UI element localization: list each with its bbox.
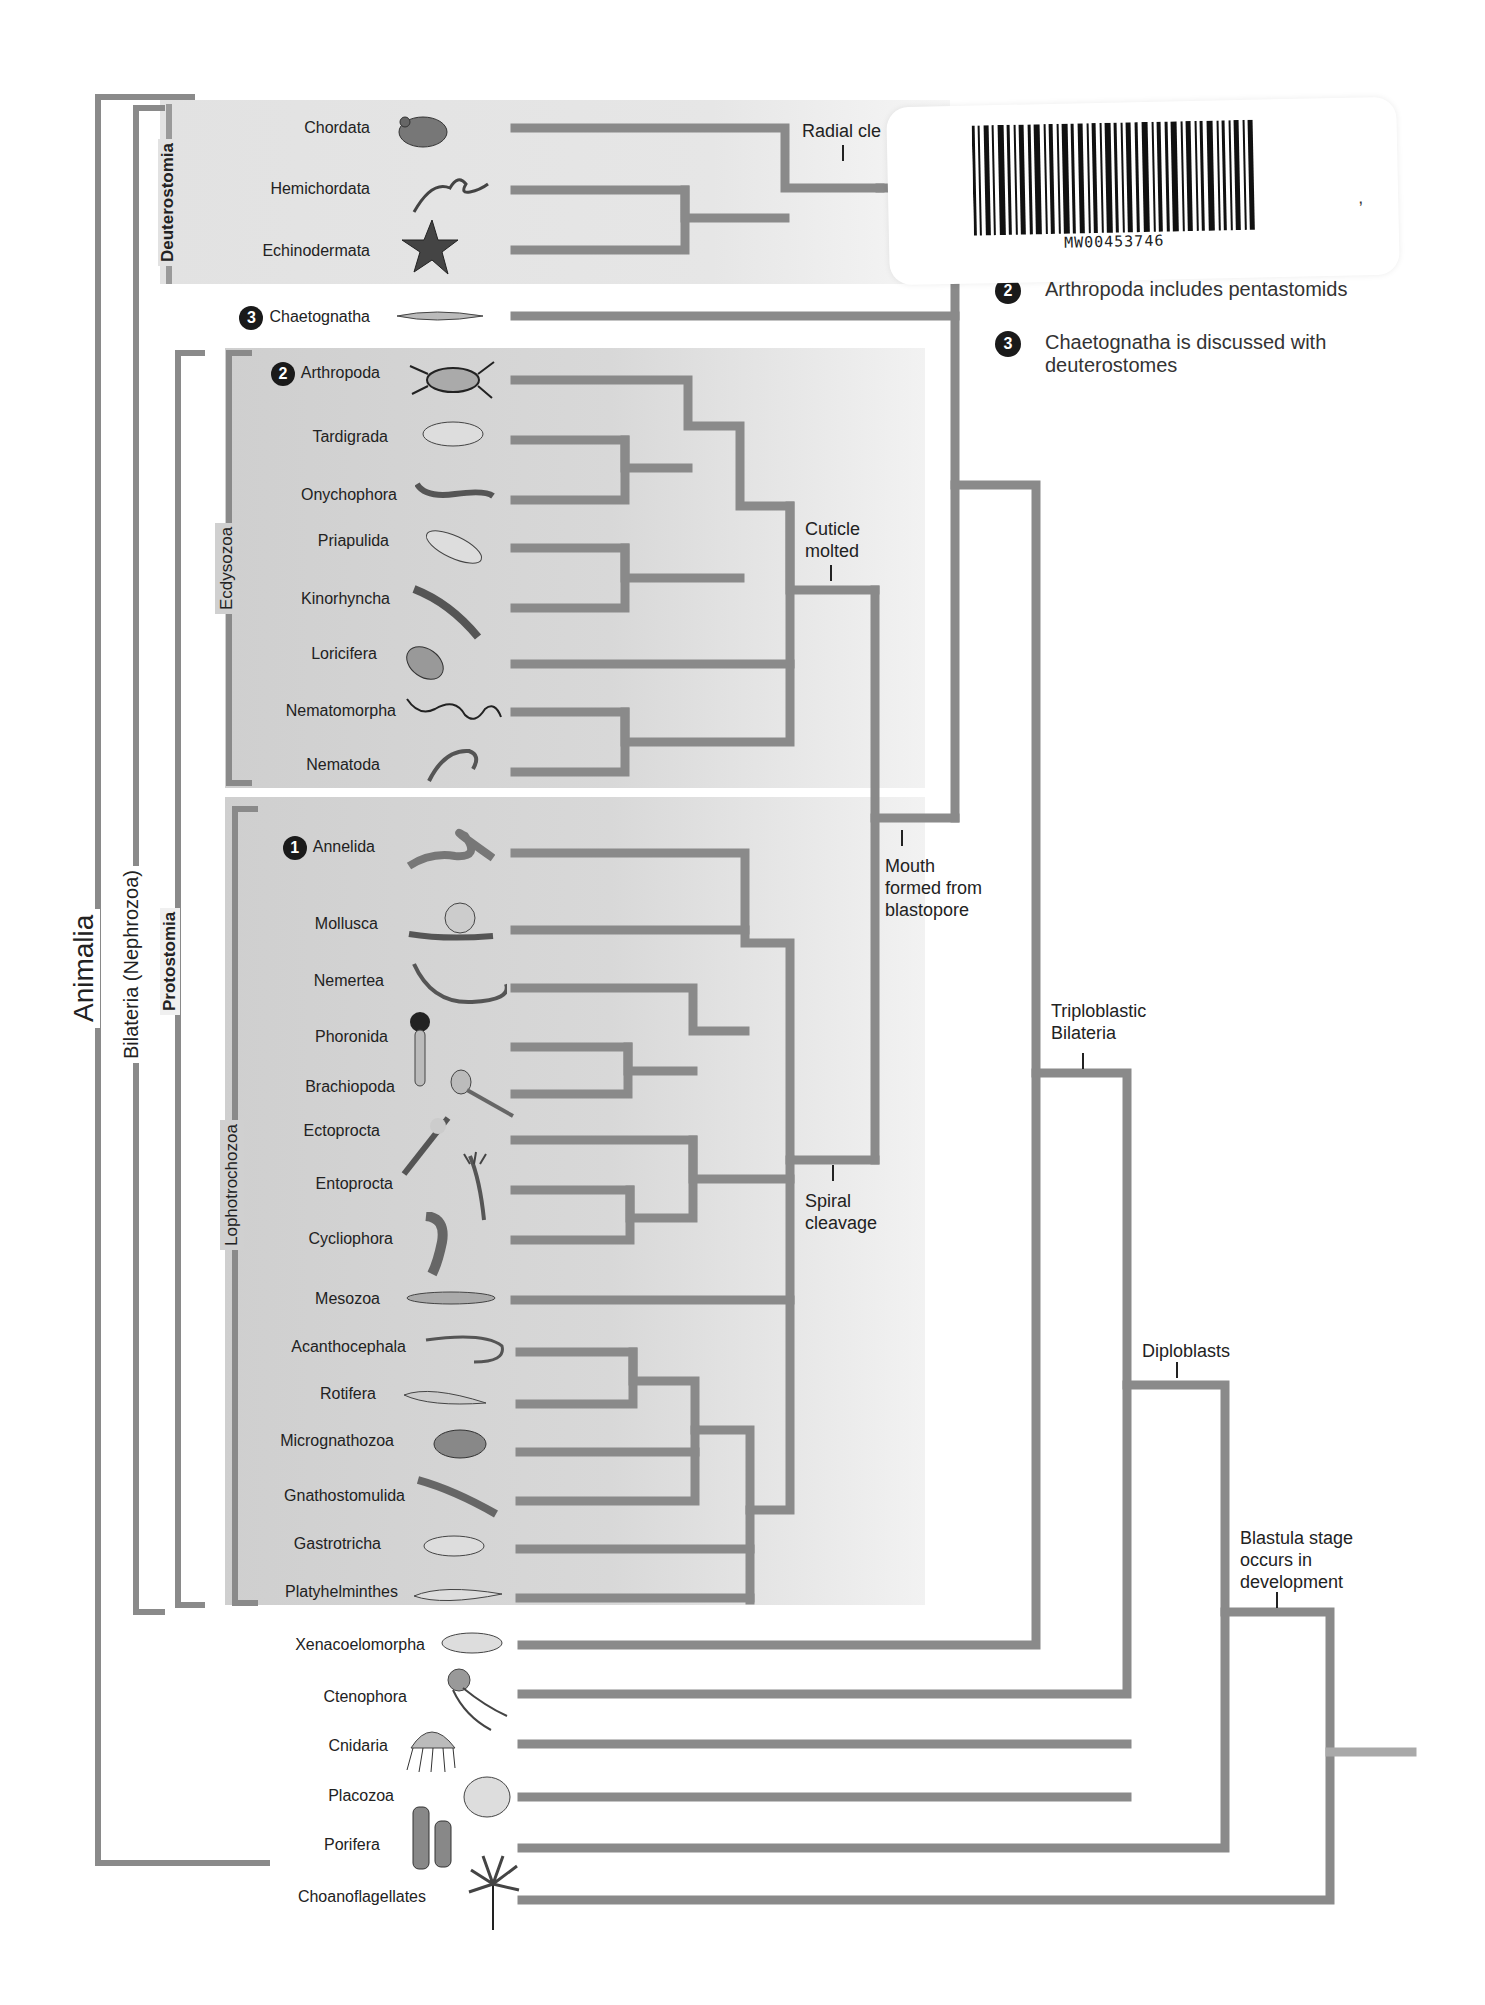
acorn-worm-icon <box>410 170 490 215</box>
taxon-annelida-label: Annelida <box>313 838 375 855</box>
taxon-chaetognatha-label: Chaetognatha <box>269 308 370 325</box>
taxon-hemichordata: Hemichordata <box>190 180 370 198</box>
triplo-line1: Triploblastic <box>1051 1000 1146 1022</box>
taxon-phoronida: Phoronida <box>208 1028 388 1046</box>
legend-text-2: Arthropoda includes pentastomids <box>1045 278 1347 301</box>
taxon-arthropoda-label: Arthropoda <box>301 364 380 381</box>
node-label-diploblasts: Diploblasts <box>1142 1340 1230 1362</box>
blastula-line1: Blastula stage <box>1240 1527 1353 1549</box>
taxon-mollusca: Mollusca <box>198 915 378 933</box>
acanthocephalan-icon <box>424 1332 509 1368</box>
horsehair-worm-icon <box>405 695 503 727</box>
bilateria-bracket <box>133 105 139 1615</box>
animalia-bracket-bottom <box>95 1860 270 1866</box>
insect-icon <box>408 356 496 404</box>
mouth-line3: blastopore <box>885 899 982 921</box>
kinorhynch-icon <box>410 583 482 641</box>
acoel-icon <box>440 1630 504 1656</box>
cuticle-line1: Cuticle <box>805 518 860 540</box>
legend-badge-3: 3 <box>995 331 1021 357</box>
ecdysozoa-bracket-bottom <box>226 780 252 786</box>
taxon-nematomorpha: Nematomorpha <box>216 702 396 720</box>
badge-3: 3 <box>239 306 263 330</box>
gnathostomulid-icon <box>414 1476 500 1518</box>
badge-2: 2 <box>271 362 295 386</box>
bilateria-bracket-top <box>133 105 165 111</box>
mouth-line2: formed from <box>885 877 982 899</box>
bilateria-label: Bilateria (Nephrozoa) <box>120 866 143 1063</box>
choanoflagellate-icon <box>465 1850 523 1932</box>
entoproct-icon <box>460 1150 500 1225</box>
barcode-number: MW00453746 <box>1064 232 1165 252</box>
priapulid-icon <box>422 525 494 575</box>
taxon-echinodermata: Echinodermata <box>190 242 370 260</box>
taxon-tardigrada: Tardigrada <box>208 428 388 446</box>
gastrotrich-icon <box>420 1532 500 1562</box>
protostomia-bracket-bottom <box>175 1602 205 1608</box>
deuterostomia-label: Deuterostomia <box>158 139 178 266</box>
starfish-icon <box>400 218 460 276</box>
rotifer-icon <box>400 1383 488 1409</box>
badge-1: 1 <box>283 836 307 860</box>
taxon-choanoflagellates: Choanoflagellates <box>246 1888 426 1906</box>
taxon-loricifera: Loricifera <box>197 645 377 663</box>
protostomia-label: Protostomia <box>160 908 180 1015</box>
tick-diploblasts <box>1176 1362 1178 1378</box>
spiral-line1: Spiral <box>805 1190 877 1212</box>
mesozoan-icon <box>405 1290 497 1306</box>
legend-text-3-line2: deuterostomes <box>1045 354 1177 376</box>
tick-mouth-blastopore <box>901 830 903 846</box>
taxon-porifera: Porifera <box>200 1836 380 1854</box>
node-label-mouth-blastopore: Mouth formed from blastopore <box>885 855 982 921</box>
ribbon-worm-icon <box>412 962 507 1007</box>
taxon-gnathostomulida: Gnathostomulida <box>225 1487 405 1505</box>
protostomia-bracket-top <box>175 350 205 356</box>
bryozoan-icon <box>398 1110 456 1180</box>
brachiopod-icon <box>447 1068 517 1118</box>
spiral-line2: cleavage <box>805 1212 877 1234</box>
tick-triploblastic <box>1082 1053 1084 1069</box>
tick-spiral-cleavage <box>832 1165 834 1181</box>
taxon-chordata: Chordata <box>190 119 370 137</box>
taxon-rotifera: Rotifera <box>196 1385 376 1403</box>
node-label-cuticle-molted: Cuticle molted <box>805 518 860 562</box>
earthworm-icon <box>405 822 495 870</box>
tardigrade-icon <box>418 420 488 450</box>
taxon-priapulida: Priapulida <box>209 532 389 550</box>
sticker-partial-text: , <box>1358 187 1363 208</box>
roundworm-icon <box>425 745 485 785</box>
sponge-icon <box>411 1805 456 1875</box>
barcode-icon <box>972 120 1265 251</box>
triplo-line2: Bilateria <box>1051 1022 1146 1044</box>
taxon-onychophora: Onychophora <box>217 486 397 504</box>
node-label-spiral-cleavage: Spiral cleavage <box>805 1190 877 1234</box>
taxon-cnidaria: Cnidaria <box>208 1737 388 1755</box>
tick-radial-cleavage <box>842 145 844 161</box>
node-label-triploblastic: Triploblastic Bilateria <box>1051 1000 1146 1044</box>
velvet-worm-icon <box>415 480 495 504</box>
micrognathozoan-icon <box>430 1426 492 1464</box>
blastula-line3: development <box>1240 1571 1353 1593</box>
node-label-blastula: Blastula stage occurs in development <box>1240 1527 1353 1593</box>
taxon-cycliophora: Cycliophora <box>213 1230 393 1248</box>
taxon-nematoda: Nematoda <box>200 756 380 774</box>
frog-icon <box>393 108 453 158</box>
taxon-ctenophora: Ctenophora <box>227 1688 407 1706</box>
animalia-label: Animalia <box>68 909 100 1028</box>
cuticle-line2: molted <box>805 540 860 562</box>
blastula-line2: occurs in <box>1240 1549 1353 1571</box>
taxon-micrognathozoa: Micrognathozoa <box>214 1432 394 1450</box>
tick-cuticle-molted <box>830 565 832 581</box>
taxon-ectoprocta: Ectoprocta <box>200 1122 380 1140</box>
arrow-worm-icon <box>395 308 490 324</box>
placozoan-icon <box>462 1775 512 1819</box>
jellyfish-icon <box>403 1722 459 1774</box>
legend-item-3: 3 Chaetognatha is discussed with deutero… <box>995 331 1326 377</box>
node-label-radial-cleavage: Radial cle <box>802 120 881 142</box>
barcode-sticker: MW00453746 , <box>886 97 1400 286</box>
taxon-arthropoda: 2Arthropoda <box>200 362 380 386</box>
animalia-bracket-top <box>95 94 195 100</box>
ecdysozoa-bracket-top <box>226 350 252 356</box>
taxon-entoprocta: Entoprocta <box>213 1175 393 1193</box>
snail-icon <box>405 900 495 942</box>
